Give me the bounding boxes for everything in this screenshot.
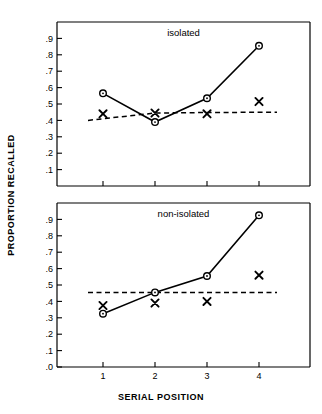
y-tick-label: .2 [45, 329, 53, 339]
y-tick-label: .7 [45, 66, 53, 76]
data-point-circle-center [154, 291, 156, 293]
x-tick-label: 4 [256, 371, 261, 381]
data-point-circle-center [102, 92, 104, 94]
data-point-x [203, 298, 210, 305]
data-point-circle-center [102, 313, 104, 315]
panel-bottom: .0.1.2.3.4.5.6.7.8.91234non-isolated [45, 203, 310, 381]
y-tick-label: .5 [45, 280, 53, 290]
y-tick-label: .1 [45, 165, 53, 175]
y-tick-label: .2 [45, 148, 53, 158]
data-point-x [255, 272, 262, 279]
data-point-x [255, 98, 262, 105]
series-line-solid [103, 215, 259, 313]
y-tick-label: .9 [45, 215, 53, 225]
data-point-x [99, 302, 106, 309]
data-point-x [151, 299, 158, 306]
figure-container: .1.2.3.4.5.6.7.8.9isolated.0.1.2.3.4.5.6… [0, 0, 322, 414]
data-point-circle-center [154, 121, 156, 123]
data-point-circle-center [258, 45, 260, 47]
chart-svg: .1.2.3.4.5.6.7.8.9isolated.0.1.2.3.4.5.6… [0, 0, 322, 414]
y-tick-label: .6 [45, 83, 53, 93]
x-axis-title: SERIAL POSITION [118, 392, 204, 402]
panel-title-bottom: non-isolated [158, 208, 210, 219]
y-tick-label: .0 [45, 362, 53, 372]
panel-title-top: isolated [167, 27, 200, 38]
data-point-circle-center [206, 97, 208, 99]
series-line-dashed [88, 112, 277, 120]
panel-top: .1.2.3.4.5.6.7.8.9isolated [45, 22, 310, 186]
y-axis-title: PROPORTION RECALLED [6, 134, 16, 256]
data-point-x [203, 110, 210, 117]
data-point-circle-center [206, 275, 208, 277]
y-tick-label: .3 [45, 313, 53, 323]
x-tick-label: 3 [204, 371, 209, 381]
y-tick-label: .8 [45, 231, 53, 241]
x-tick-label: 2 [152, 371, 157, 381]
y-tick-label: .7 [45, 247, 53, 257]
y-tick-label: .3 [45, 132, 53, 142]
series-line-solid [103, 46, 259, 122]
y-tick-label: .4 [45, 116, 53, 126]
y-tick-label: .5 [45, 99, 53, 109]
data-point-x [99, 110, 106, 117]
x-tick-label: 1 [100, 371, 105, 381]
y-tick-label: .4 [45, 297, 53, 307]
y-tick-label: .8 [45, 50, 53, 60]
data-point-circle-center [258, 214, 260, 216]
y-tick-label: .9 [45, 34, 53, 44]
y-tick-label: .1 [45, 346, 53, 356]
y-tick-label: .6 [45, 264, 53, 274]
